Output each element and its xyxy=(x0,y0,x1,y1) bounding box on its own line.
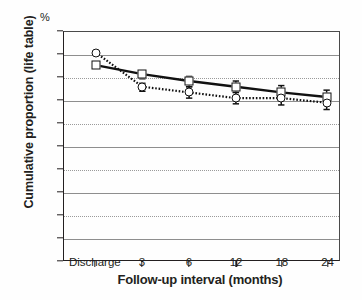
data-point-circle-discharge xyxy=(91,48,100,57)
data-point-circle-6 xyxy=(185,88,194,97)
x-tick-mark-3 xyxy=(141,261,142,267)
data-point-square-12 xyxy=(231,82,240,91)
plot-area xyxy=(63,31,340,261)
data-point-circle-24 xyxy=(322,98,331,107)
y-axis-unit-label: % xyxy=(40,11,50,23)
y-axis-title: Cumulative proportion (life table) xyxy=(22,0,36,237)
x-axis-title: Follow-up interval (months) xyxy=(55,272,345,287)
x-tick-mark-24 xyxy=(327,261,328,267)
x-tick-mark-discharge xyxy=(94,261,95,267)
chart-figure: % Cumulative proportion (life table) Fol… xyxy=(0,0,362,300)
data-point-circle-18 xyxy=(277,94,286,103)
data-point-square-6 xyxy=(185,77,194,86)
data-point-circle-3 xyxy=(138,82,147,91)
data-point-circle-12 xyxy=(231,94,240,103)
data-point-square-discharge xyxy=(91,61,100,70)
x-tick-mark-12 xyxy=(235,261,236,267)
data-marker-layer xyxy=(64,32,339,260)
x-tick-mark-6 xyxy=(188,261,189,267)
x-tick-mark-18 xyxy=(281,261,282,267)
data-point-square-3 xyxy=(138,70,147,79)
